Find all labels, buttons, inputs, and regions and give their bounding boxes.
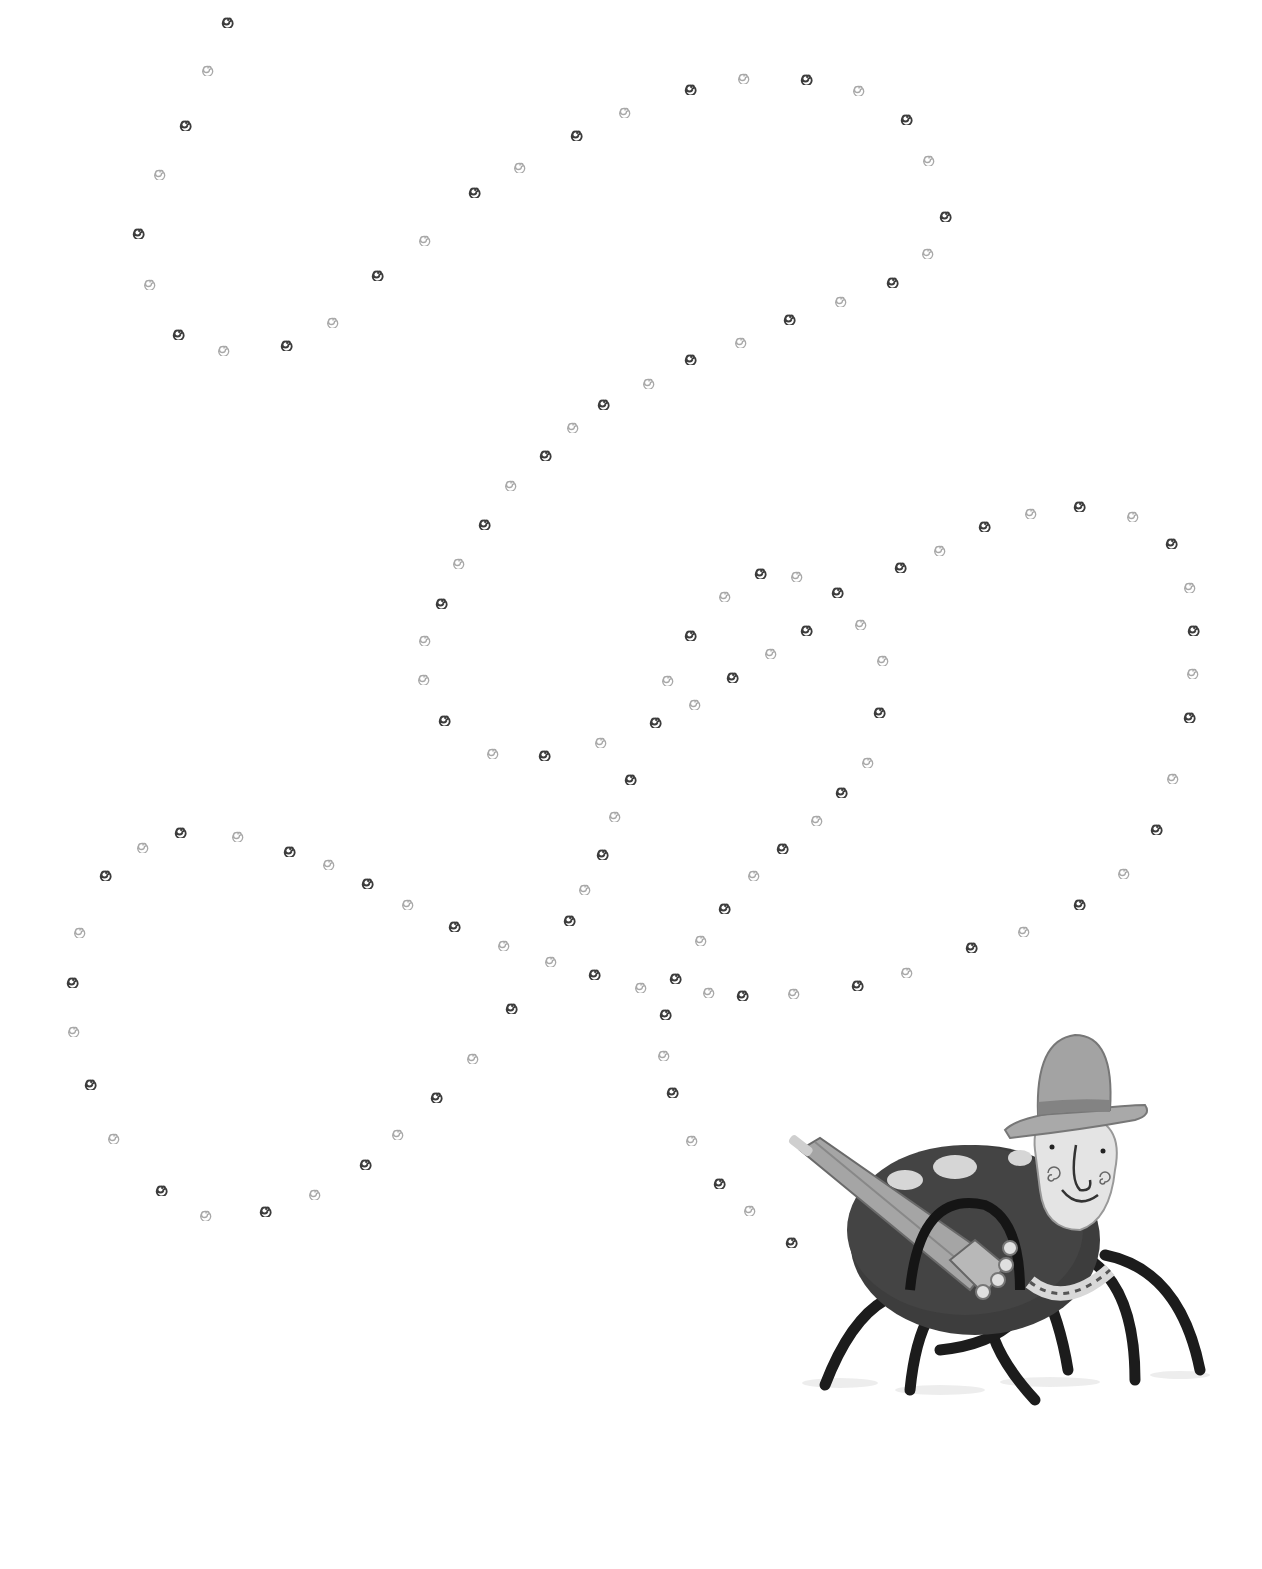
spiral-icon <box>417 230 433 246</box>
spiral-icon <box>1185 663 1201 679</box>
spiral-icon <box>830 582 846 598</box>
spiral-icon <box>683 625 699 641</box>
spiral-icon <box>447 916 463 932</box>
spiral-icon <box>1186 620 1202 636</box>
spiral-icon <box>735 985 751 1001</box>
spiral-icon <box>178 115 194 131</box>
spiral-icon <box>782 309 798 325</box>
spiral-icon <box>938 206 954 222</box>
bowler-hat <box>1005 1035 1147 1138</box>
spiral-icon <box>623 769 639 785</box>
spiral-icon <box>465 1048 481 1064</box>
spiral-icon <box>258 1201 274 1217</box>
spiral-icon <box>1072 496 1088 512</box>
spiral-icon <box>282 841 298 857</box>
spiral-icon <box>417 630 433 646</box>
spiral-icon <box>400 894 416 910</box>
spiral-icon <box>173 822 189 838</box>
spiral-icon <box>717 586 733 602</box>
spiral-icon <box>875 650 891 666</box>
spiral-icon <box>1164 533 1180 549</box>
spiral-icon <box>131 223 147 239</box>
spiral-icon <box>920 243 936 259</box>
spiral-icon <box>485 743 501 759</box>
spiral-icon <box>358 1154 374 1170</box>
spiral-icon <box>851 80 867 96</box>
spiral-icon <box>633 977 649 993</box>
spiral-icon <box>360 873 376 889</box>
spiral-icon <box>687 694 703 710</box>
spiral-icon <box>106 1128 122 1144</box>
spiral-icon <box>893 557 909 573</box>
spiral-icon <box>65 972 81 988</box>
spiral-icon <box>390 1124 406 1140</box>
spiral-icon <box>899 109 915 125</box>
spiral-icon <box>1182 577 1198 593</box>
spiral-icon <box>543 951 559 967</box>
spiral-icon <box>1182 707 1198 723</box>
spiral-icon <box>872 702 888 718</box>
spiral-icon <box>850 975 866 991</box>
spiral-icon <box>753 563 769 579</box>
spiral-icon <box>834 782 850 798</box>
spiral-icon <box>565 417 581 433</box>
spiral-icon <box>712 1173 728 1189</box>
spiral-icon <box>799 69 815 85</box>
spiral-icon <box>220 12 236 28</box>
spiral-icon <box>733 332 749 348</box>
spiral-icon <box>683 79 699 95</box>
spiral-icon <box>98 865 114 881</box>
spider-character <box>780 1020 1230 1420</box>
spiral-icon <box>684 1130 700 1146</box>
spiral-icon <box>660 670 676 686</box>
spiral-icon <box>833 291 849 307</box>
spiral-icon <box>577 879 593 895</box>
spiral-icon <box>587 964 603 980</box>
spiral-icon <box>83 1074 99 1090</box>
spiral-icon <box>142 274 158 290</box>
spiral-icon <box>921 150 937 166</box>
spiral-icon <box>230 826 246 842</box>
spiral-icon <box>885 272 901 288</box>
spiral-icon <box>467 182 483 198</box>
spiral-icon <box>746 865 762 881</box>
spiral-icon <box>72 922 88 938</box>
spiral-icon <box>477 514 493 530</box>
spiral-icon <box>742 1200 758 1216</box>
spiral-icon <box>1072 894 1088 910</box>
spiral-icon <box>1125 506 1141 522</box>
spiral-icon <box>789 566 805 582</box>
spiral-icon <box>321 854 337 870</box>
spiral-icon <box>786 983 802 999</box>
spiral-icon <box>66 1021 82 1037</box>
spiral-icon <box>512 157 528 173</box>
spiral-icon <box>717 898 733 914</box>
spiral-icon <box>562 910 578 926</box>
spiral-icon <box>538 445 554 461</box>
spiral-icon <box>809 810 825 826</box>
spiral-icon <box>437 710 453 726</box>
spiral-icon <box>429 1087 445 1103</box>
spiral-icon <box>216 340 232 356</box>
spiral-icon <box>504 998 520 1014</box>
spiral-icon <box>668 968 684 984</box>
spiral-icon <box>152 164 168 180</box>
spider-illustration-icon <box>780 1020 1230 1420</box>
spiral-icon <box>736 68 752 84</box>
spiral-icon <box>656 1045 672 1061</box>
spiral-icon <box>658 1004 674 1020</box>
spiral-icon <box>683 349 699 365</box>
spiral-icon <box>693 930 709 946</box>
spiral-icon <box>451 553 467 569</box>
spiral-icon <box>434 593 450 609</box>
spiral-icon <box>1116 863 1132 879</box>
spiral-icon <box>200 60 216 76</box>
spiral-icon <box>537 745 553 761</box>
spiral-icon <box>595 844 611 860</box>
illustration-canvas <box>0 0 1262 1569</box>
spiral-icon <box>607 806 623 822</box>
spiral-icon <box>307 1184 323 1200</box>
spiral-icon <box>279 335 295 351</box>
spiral-icon <box>135 837 151 853</box>
spiral-icon <box>648 712 664 728</box>
